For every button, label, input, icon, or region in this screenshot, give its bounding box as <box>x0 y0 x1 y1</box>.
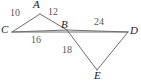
geometry-figure-svg <box>0 0 141 84</box>
geometry-diagram: ACBDE 1012162418 <box>0 0 141 84</box>
edge-length-12: 12 <box>48 7 58 17</box>
edge-length-24: 24 <box>94 17 104 27</box>
edge-length-18: 18 <box>62 45 72 55</box>
vertex-label-a: A <box>33 0 40 10</box>
vertex-label-e: E <box>94 70 101 81</box>
edge-length-10: 10 <box>10 8 20 18</box>
vertex-label-b: B <box>61 19 68 30</box>
vertex-label-d: D <box>130 25 138 36</box>
edge-length-16: 16 <box>31 35 41 45</box>
edge-ed <box>97 32 128 70</box>
vertex-label-c: C <box>1 24 8 35</box>
